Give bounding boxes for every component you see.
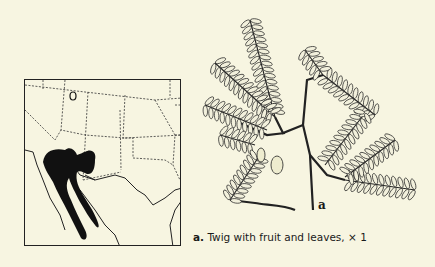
caption-letter: a. xyxy=(193,231,204,243)
caption-scale: × 1 xyxy=(348,231,367,243)
figure-caption: a. Twig with fruit and leaves, × 1 xyxy=(193,231,367,243)
range-area xyxy=(43,92,99,240)
figure-part-label: a xyxy=(318,198,326,212)
caption-text: Twig with fruit and leaves, xyxy=(207,231,344,243)
map-svg xyxy=(25,80,181,246)
leaflets xyxy=(203,18,417,204)
range-map xyxy=(24,79,181,246)
twig-illustration xyxy=(195,5,430,215)
